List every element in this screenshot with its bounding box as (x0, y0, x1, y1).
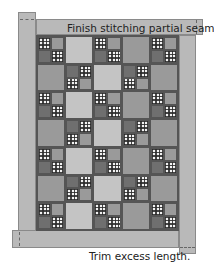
four-patch-block (65, 119, 93, 147)
four-patch-block (93, 91, 121, 119)
checker-patch (79, 65, 92, 78)
checker-patch (38, 203, 51, 216)
dark-patch (94, 161, 107, 174)
checker-patch (136, 176, 149, 189)
plain-block (65, 36, 93, 64)
checker-patch (151, 148, 164, 161)
plain-block (150, 119, 178, 147)
checker-patch (38, 148, 51, 161)
checker-patch (38, 92, 51, 105)
checker-patch (136, 65, 149, 78)
four-patch-block (150, 202, 178, 230)
checker-patch (66, 188, 79, 201)
bottom-strip-seam-line (19, 232, 20, 246)
medium-patch (51, 148, 64, 161)
medium-patch (51, 203, 64, 216)
medium-patch (136, 188, 149, 201)
checker-patch (136, 120, 149, 133)
annotation-trim-length: Trim excess length. (89, 250, 190, 262)
plain-block (37, 64, 65, 92)
annotation-finish-seam: Finish stitching partial seam. (67, 22, 214, 34)
medium-patch (164, 92, 177, 105)
dark-patch (38, 216, 51, 229)
four-patch-block (93, 147, 121, 175)
dark-patch (38, 105, 51, 118)
four-patch-block (150, 36, 178, 64)
checker-patch (66, 78, 79, 91)
medium-patch (164, 148, 177, 161)
checker-patch (107, 161, 120, 174)
left-border-strip (18, 12, 36, 231)
checker-patch (164, 161, 177, 174)
checker-patch (107, 105, 120, 118)
four-patch-block (122, 175, 150, 203)
plain-block (37, 119, 65, 147)
dark-patch (66, 120, 79, 133)
checker-patch (51, 216, 64, 229)
checker-patch (164, 50, 177, 63)
medium-patch (79, 133, 92, 146)
dark-patch (66, 176, 79, 189)
four-patch-block (65, 175, 93, 203)
medium-patch (164, 203, 177, 216)
quilt-center-grid (36, 35, 179, 231)
plain-block (65, 91, 93, 119)
medium-patch (164, 37, 177, 50)
dark-patch (38, 50, 51, 63)
plain-block (37, 175, 65, 203)
bottom-border-strip (12, 230, 179, 248)
checker-patch (94, 203, 107, 216)
checker-patch (94, 148, 107, 161)
medium-patch (51, 37, 64, 50)
checker-patch (107, 50, 120, 63)
medium-patch (136, 133, 149, 146)
checker-patch (51, 50, 64, 63)
dark-patch (151, 50, 164, 63)
checker-patch (51, 161, 64, 174)
checker-patch (151, 37, 164, 50)
four-patch-block (37, 36, 65, 64)
plain-block (93, 175, 121, 203)
checker-patch (151, 203, 164, 216)
checker-patch (51, 105, 64, 118)
checker-patch (123, 188, 136, 201)
four-patch-block (122, 64, 150, 92)
medium-patch (136, 78, 149, 91)
plain-block (122, 36, 150, 64)
medium-patch (107, 92, 120, 105)
four-patch-block (37, 91, 65, 119)
four-patch-block (93, 36, 121, 64)
four-patch-block (37, 147, 65, 175)
four-patch-block (65, 64, 93, 92)
dark-patch (151, 216, 164, 229)
checker-patch (151, 92, 164, 105)
plain-block (150, 64, 178, 92)
checker-patch (123, 78, 136, 91)
checker-patch (164, 216, 177, 229)
checker-patch (164, 105, 177, 118)
right-border-strip (179, 35, 196, 254)
checker-patch (94, 37, 107, 50)
plain-block (93, 119, 121, 147)
dark-patch (66, 65, 79, 78)
four-patch-block (122, 119, 150, 147)
left-strip-seam-line (20, 19, 34, 20)
four-patch-block (150, 147, 178, 175)
right-strip-seam-line (180, 247, 195, 248)
checker-patch (66, 133, 79, 146)
medium-patch (107, 148, 120, 161)
plain-block (150, 175, 178, 203)
plain-block (122, 91, 150, 119)
dark-patch (123, 65, 136, 78)
dark-patch (123, 120, 136, 133)
four-patch-block (150, 91, 178, 119)
checker-patch (79, 176, 92, 189)
medium-patch (79, 78, 92, 91)
dark-patch (94, 50, 107, 63)
medium-patch (107, 37, 120, 50)
plain-block (65, 202, 93, 230)
checker-patch (38, 37, 51, 50)
medium-patch (79, 188, 92, 201)
medium-patch (107, 203, 120, 216)
dark-patch (38, 161, 51, 174)
